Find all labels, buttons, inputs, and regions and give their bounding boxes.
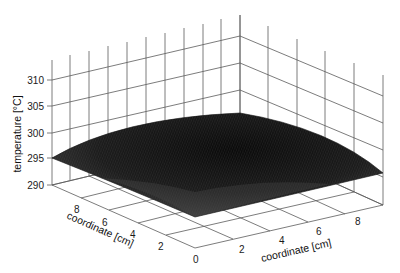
temperature-surface xyxy=(52,113,383,217)
z-axis: 310 305 300 295 290 temperature [°C] xyxy=(11,75,52,191)
x-tick-6: 6 xyxy=(316,226,322,237)
z-tick-305: 305 xyxy=(27,101,44,112)
surface-plot: 310 305 300 295 290 temperature [°C] 8 6… xyxy=(0,0,400,273)
z-tick-310: 310 xyxy=(27,75,44,86)
x-tick-8: 8 xyxy=(355,216,361,227)
x-tick-2: 2 xyxy=(239,244,245,255)
y-axis-label: coordinate [cm] xyxy=(65,209,136,249)
z-tick-295: 295 xyxy=(27,153,44,164)
y-tick-2: 2 xyxy=(158,241,164,252)
x-tick-0: 0 xyxy=(193,254,199,265)
z-axis-label: temperature [°C] xyxy=(11,95,23,172)
z-tick-290: 290 xyxy=(27,180,44,191)
x-axis-label: coordinate [cm] xyxy=(260,236,333,264)
x-tick-4: 4 xyxy=(279,235,285,246)
z-tick-300: 300 xyxy=(27,128,44,139)
